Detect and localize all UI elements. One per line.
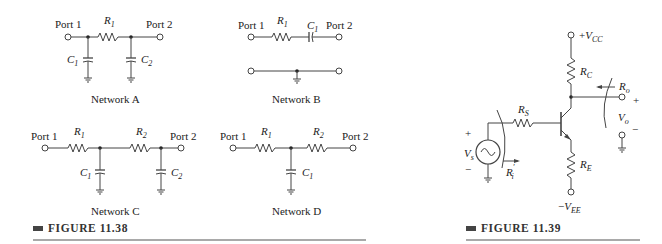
port1-label: Port 1 [238,19,265,31]
figures-canvas: Port 1 Port 2 R1 C1 C2 Network A [0,0,662,244]
r2-label: R2 [135,125,147,140]
r1-label: R1 [276,14,288,29]
port1-terminal-icon [230,145,236,151]
rs-label: RS [517,103,529,118]
vs-minus: − [465,163,471,175]
resistor-rs-icon [513,119,533,127]
figure-11-38-caption: FIGURE 11.38 [48,222,128,234]
resistor-re-icon [567,152,575,178]
port2-terminal-icon [157,34,163,40]
output-return-terminal-icon [619,132,625,138]
port1-label: Port 1 [31,130,58,142]
rc-label: RC [579,65,593,80]
r1-label: R1 [103,14,115,29]
vo-plus: + [633,94,639,106]
network-d-title: Network D [272,205,321,217]
ro-reference-arc [604,78,612,128]
port2-label: Port 2 [326,19,353,31]
port2-label: Port 2 [170,130,197,142]
c1-label: C1 [80,166,91,181]
re-label: RE [579,158,592,173]
c2-label: C2 [171,166,182,181]
vs-label: Vs [464,147,474,162]
c1-label: C1 [67,53,78,68]
c1-label: C1 [302,166,313,181]
network-b: Port 1 Port 2 R1 C1 Network B [238,14,353,105]
c1-label: C1 [307,19,318,34]
port2-terminal-icon [178,145,184,151]
port1-terminal-icon [65,34,71,40]
network-d: Port 1 Port 2 R1 R2 C1 Network D [220,125,369,217]
vcc-label: +VCC [579,29,603,44]
ri-arrow-icon [514,159,520,163]
port1-return-terminal-icon [248,68,254,74]
r2-label: R2 [312,125,324,140]
ground-icon [618,138,626,152]
bjt-amplifier-circuit: +VCC RC + Ro Vo − RS [464,29,639,215]
resistor-r1-icon [68,144,88,152]
capacitor-c1-icon [286,148,296,194]
figure-11-39-caption: FIGURE 11.39 [481,222,561,234]
ro-label: Ro [618,80,630,95]
vee-terminal-icon [568,189,574,195]
port2-label: Port 2 [342,130,369,142]
port1-terminal-icon [42,145,48,151]
capacitor-c1-icon [95,148,105,194]
port2-terminal-icon [336,34,342,40]
capacitor-c2-icon [156,148,166,194]
ground-icon [293,71,301,83]
port1-label: Port 1 [220,130,247,142]
port2-return-terminal-icon [336,68,342,74]
output-terminal-icon [619,94,625,100]
vo-label: Vo [618,111,629,126]
network-c-title: Network C [91,205,140,217]
port2-terminal-icon [350,145,356,151]
ground-icon [484,178,492,182]
r1-label: R1 [260,125,272,140]
resistor-r2-icon [307,144,327,152]
capacitor-c1-icon [83,37,93,82]
r1-label: R1 [73,125,85,140]
port2-label: Port 2 [146,18,173,30]
vo-minus: − [632,123,638,135]
resistor-r1-icon [98,33,118,41]
network-a-title: Network A [91,93,140,105]
caption-marker-icon [33,226,43,231]
resistor-r1-icon [255,144,275,152]
port1-label: Port 1 [55,18,82,30]
ro-arrow-icon [596,85,602,89]
ri-prime-label: R′i [505,163,515,181]
network-a: Port 1 Port 2 R1 C1 C2 Network A [55,14,173,105]
npn-transistor-icon [561,105,571,140]
capacitor-c2-icon [126,37,136,82]
vee-label: −VEE [558,200,581,215]
network-b-title: Network B [272,93,321,105]
vcc-terminal-icon [568,32,574,38]
vs-plus: + [465,127,471,139]
resistor-rc-icon [567,58,575,84]
resistor-r1-icon [272,33,291,41]
c2-label: C2 [141,53,152,68]
network-c: Port 1 Port 2 R1 R2 C1 C2 Network C [31,125,197,217]
resistor-r2-icon [130,144,150,152]
caption-marker-icon [466,226,476,231]
port1-terminal-icon [248,34,254,40]
